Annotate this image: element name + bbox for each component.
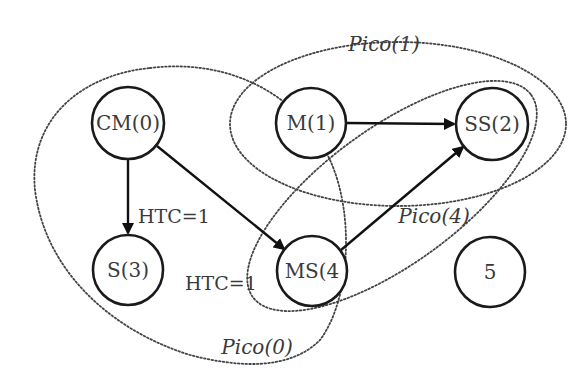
node-cm0: CM(0) (92, 87, 164, 159)
pico4-label: Pico(4) (397, 204, 469, 228)
node-ms4-label: MS(4 (285, 259, 340, 283)
nodes: CM(0) M(1) SS(2) S(3) MS(4 5 (92, 87, 528, 307)
pico0-label: Pico(0) (220, 335, 292, 359)
node-s3: S(3) (93, 235, 163, 305)
node-cm0-label: CM(0) (96, 111, 160, 135)
edge-m1-ss2 (346, 123, 454, 124)
edge-cm0-ms4 (157, 146, 284, 249)
edge-label-htc-cm0-s3: HTC=1 (138, 205, 210, 227)
node-m1: M(1) (276, 88, 346, 158)
pico1-label: Pico(1) (347, 32, 419, 56)
node-5: 5 (455, 237, 525, 307)
edge-ms4-ss2 (341, 147, 463, 250)
node-5-label: 5 (484, 260, 497, 284)
node-s3-label: S(3) (107, 258, 149, 282)
piconet-diagram: Pico(0) Pico(1) Pico(4) HTC=1 HTC=1 CM(0… (0, 0, 586, 388)
node-ms4: MS(4 (277, 236, 347, 306)
piconet-labels: Pico(0) Pico(1) Pico(4) (220, 32, 469, 359)
node-ss2: SS(2) (456, 88, 528, 160)
pico4-boundary (213, 40, 571, 352)
node-m1-label: M(1) (287, 111, 336, 135)
edge-label-htc-cm0-ms4: HTC=1 (185, 272, 257, 294)
node-ss2-label: SS(2) (464, 112, 519, 136)
